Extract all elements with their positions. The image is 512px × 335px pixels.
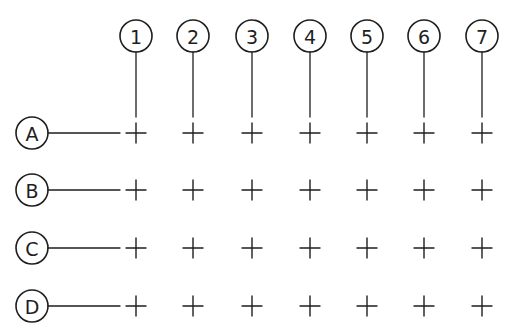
cross-B4-icon [300,180,320,200]
grid-diagram: 1234567 ABCD [0,0,512,335]
cross-D3-icon [242,296,262,316]
cross-B3-icon [242,180,262,200]
row-marker-B: B [16,174,120,206]
cross-C4-icon [300,238,320,258]
cross-D4-icon [300,296,320,316]
cross-B7-icon [472,180,492,200]
column-label: 1 [130,26,142,48]
column-label: 7 [476,26,488,48]
column-marker-5: 5 [351,20,383,117]
cross-D2-icon [183,296,203,316]
cross-D5-icon [357,296,377,316]
column-label: 3 [246,26,258,48]
cross-C3-icon [242,238,262,258]
row-grid-lines: ABCD [16,117,120,322]
grid-intersections [126,123,492,316]
cross-D6-icon [414,296,434,316]
row-marker-C: C [16,232,120,264]
cross-A1-icon [126,123,146,143]
column-marker-1: 1 [120,20,152,117]
cross-A3-icon [242,123,262,143]
column-label: 5 [361,26,373,48]
cross-A6-icon [414,123,434,143]
column-label: 4 [304,26,316,48]
column-grid-lines: 1234567 [120,20,498,117]
row-marker-D: D [16,290,120,322]
cross-C6-icon [414,238,434,258]
row-label: A [26,123,39,145]
column-marker-6: 6 [408,20,440,117]
cross-C1-icon [126,238,146,258]
cross-B1-icon [126,180,146,200]
cross-A2-icon [183,123,203,143]
row-label: C [25,238,38,260]
cross-A5-icon [357,123,377,143]
cross-B6-icon [414,180,434,200]
cross-C7-icon [472,238,492,258]
cross-D1-icon [126,296,146,316]
column-marker-3: 3 [236,20,268,117]
cross-C2-icon [183,238,203,258]
row-label: B [25,180,38,202]
cross-C5-icon [357,238,377,258]
cross-D7-icon [472,296,492,316]
row-label: D [25,296,40,318]
cross-B2-icon [183,180,203,200]
column-marker-7: 7 [466,20,498,117]
column-marker-2: 2 [177,20,209,117]
column-label: 6 [418,26,430,48]
cross-A7-icon [472,123,492,143]
row-marker-A: A [16,117,120,149]
column-label: 2 [187,26,199,48]
cross-A4-icon [300,123,320,143]
cross-B5-icon [357,180,377,200]
column-marker-4: 4 [294,20,326,117]
